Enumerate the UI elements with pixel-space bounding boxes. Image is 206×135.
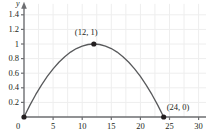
horizontal-gridlines [24,15,206,103]
point-label: (24, 0) [167,103,190,112]
chart-plot-area [0,0,206,135]
y-tick-label: 1 [15,40,19,49]
parabola-chart-figure: 0.20.40.60.811.21.4 51015202530 (12, 1)(… [0,0,206,135]
y-tick-label: 0.2 [8,98,19,107]
y-tick-label: 0.8 [8,54,19,63]
x-tick-label: 5 [43,122,63,131]
x-tick-label: 20 [130,122,150,131]
point-label: (12, 1) [75,28,98,37]
x-tick-label: 15 [101,122,121,131]
y-tick-label: 0.4 [8,83,19,92]
vertical-gridlines [39,4,199,117]
parabola-curve [24,44,164,117]
origin-tick-label: 0 [16,122,20,131]
marked-points [21,41,166,119]
x-tick-label: 10 [72,122,92,131]
y-axis-label: y [16,0,20,8]
x-tick-label: 30 [189,122,206,131]
y-tick-label: 1.2 [8,25,19,34]
y-tick-label: 0.6 [8,69,19,78]
x-tick-label: 25 [160,122,180,131]
y-tick-label: 1.4 [8,10,19,19]
